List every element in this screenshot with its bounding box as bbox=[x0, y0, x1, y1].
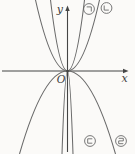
parabola-figure: xyO bbox=[0, 0, 135, 154]
label-circle-nieun bbox=[101, 3, 112, 14]
curve-label-rieul bbox=[116, 136, 127, 147]
curve-label-giyeok bbox=[84, 4, 95, 15]
label-circle-digeut bbox=[85, 136, 96, 147]
y-axis-arrow-icon bbox=[65, 6, 69, 12]
x-axis-label: x bbox=[121, 72, 128, 85]
label-glyph-giyeok-icon bbox=[87, 7, 92, 12]
label-glyph-nieun-icon bbox=[104, 6, 109, 11]
label-circle-giyeok bbox=[84, 4, 95, 15]
origin-point bbox=[66, 70, 69, 73]
label-glyph-rieul-icon bbox=[119, 138, 124, 143]
curve-label-digeut bbox=[85, 136, 96, 147]
label-glyph-digeut-icon bbox=[88, 139, 93, 143]
graph-canvas: xyO bbox=[0, 0, 135, 154]
curve-label-nieun bbox=[101, 3, 112, 14]
y-axis-label: y bbox=[56, 3, 64, 16]
